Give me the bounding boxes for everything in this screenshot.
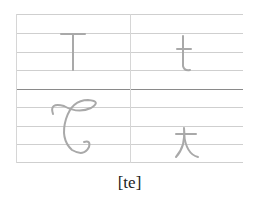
print-lowercase-t-glyph [177,36,191,70]
script-lowercase-t-glyph [176,128,198,157]
print-uppercase-t-glyph [61,34,85,70]
letter-glyphs [16,14,243,163]
letter-practice-grid [16,14,243,163]
script-uppercase-t-glyph [52,100,96,153]
phonetic-caption: [te] [0,173,259,193]
